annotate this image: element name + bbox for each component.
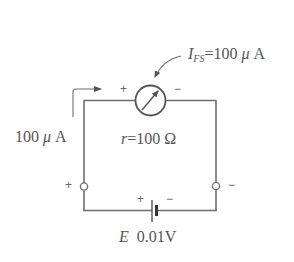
- left-terminal-plus-label: +: [65, 179, 72, 191]
- left-terminal-icon[interactable]: [80, 183, 87, 190]
- current-value: 100: [15, 128, 39, 145]
- meter-plus-label: +: [120, 83, 127, 95]
- full-scale-current-unit: A: [254, 45, 266, 62]
- battery-value: 0.01V: [137, 228, 177, 245]
- resistance-label: r=100 Ω: [121, 131, 176, 147]
- battery-label: E 0.01V: [119, 229, 176, 245]
- full-scale-current-unit-prefix: μ: [241, 45, 249, 62]
- battery-plus-label: +: [137, 193, 144, 205]
- current-unit-prefix: μ: [43, 128, 51, 145]
- battery-symbol: E: [119, 228, 129, 245]
- battery-minus-label: −: [166, 193, 173, 205]
- current-label: 100 μ A: [15, 129, 67, 145]
- full-scale-current-label: IFS=100 μ A: [188, 46, 265, 64]
- meter-icon: [136, 86, 166, 116]
- current-unit: A: [55, 128, 67, 145]
- right-terminal-minus-label: −: [228, 179, 235, 191]
- full-scale-current-subscript: FS: [193, 53, 204, 64]
- resistance-equals: =: [127, 130, 136, 147]
- meter-minus-label: −: [174, 83, 181, 95]
- meter-label-pointer-icon: [155, 56, 181, 77]
- resistance-value: 100: [136, 130, 160, 147]
- full-scale-current-value: 100: [213, 45, 237, 62]
- right-terminal-icon[interactable]: [212, 182, 219, 189]
- resistance-unit: Ω: [164, 130, 176, 147]
- current-arrow-icon: [73, 89, 101, 117]
- battery-icon: [152, 200, 157, 222]
